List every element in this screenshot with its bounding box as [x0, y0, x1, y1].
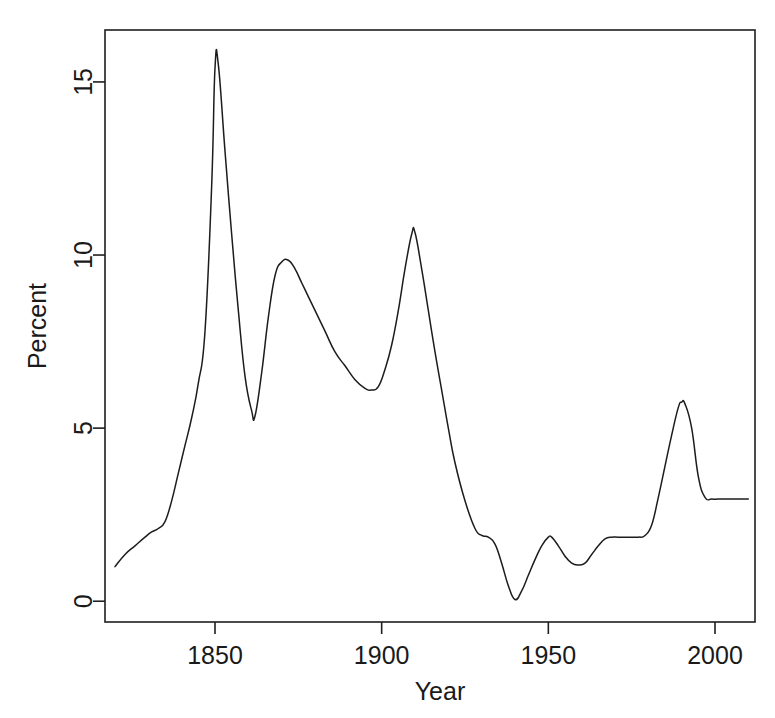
x-tick-label: 1850 — [187, 641, 243, 669]
x-tick-label: 1950 — [521, 641, 577, 669]
x-tick-label: 1900 — [354, 641, 410, 669]
y-tick-label: 0 — [69, 594, 97, 608]
y-tick-label: 15 — [69, 68, 97, 96]
y-tick-label: 5 — [69, 421, 97, 435]
y-tick-label: 10 — [69, 241, 97, 269]
x-axis-title: Year — [415, 677, 466, 705]
chart-container: 051015 1850190019502000 Percent Year — [0, 0, 775, 718]
x-tick-label: 2000 — [687, 641, 743, 669]
y-axis-title: Percent — [23, 283, 51, 369]
line-chart: 051015 1850190019502000 Percent Year — [0, 0, 775, 718]
